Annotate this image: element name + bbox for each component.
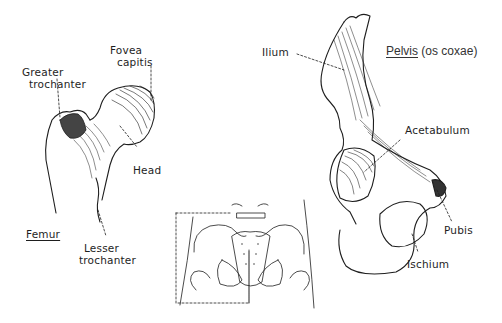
label-ilium: Ilium	[262, 46, 289, 58]
label-lesser-trochanter-line2: trochanter	[79, 254, 136, 266]
pelvis-front-drawing	[176, 200, 314, 308]
label-lesser-trochanter-line1: Lesser	[84, 242, 119, 254]
label-pubis: Pubis	[444, 224, 473, 236]
label-fovea-capitis-line2: capitis	[117, 56, 153, 68]
label-acetabulum: Acetabulum	[405, 124, 470, 136]
label-greater-trochanter-line2: trochanter	[29, 78, 86, 90]
label-head: Head	[133, 164, 161, 176]
label-ischium: Ischium	[407, 258, 449, 270]
pelvis-title-main: Pelvis	[386, 44, 418, 58]
label-fovea-capitis-line1: Fovea	[110, 44, 142, 56]
label-greater-trochanter-line1: Greater	[22, 66, 63, 78]
femur-drawing	[46, 66, 155, 236]
pelvis-title: Pelvis (os coxae)	[386, 44, 477, 58]
femur-title: Femur	[26, 228, 60, 240]
pelvis-title-sub: (os coxae)	[418, 44, 477, 58]
anatomy-figure: Greater trochanter Fovea capitis Head Fe…	[0, 0, 502, 323]
